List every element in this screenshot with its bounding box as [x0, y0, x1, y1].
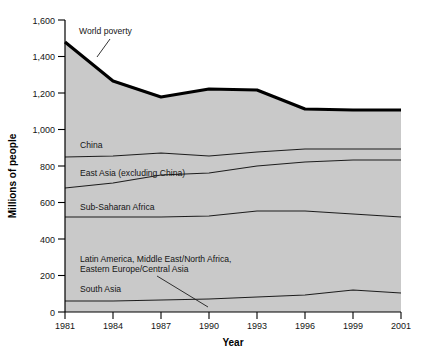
series-label-south-asia: South Asia — [80, 284, 121, 294]
y-tick-800: 800 — [40, 162, 55, 172]
y-tick-0: 0 — [50, 308, 55, 318]
y-tick-1600: 1,600 — [32, 16, 55, 26]
x-tick-1981: 1981 — [55, 321, 75, 331]
x-tick-1993: 1993 — [247, 321, 267, 331]
x-tick-1996: 1996 — [295, 321, 315, 331]
x-tick-1987: 1987 — [151, 321, 171, 331]
y-tick-1400: 1,400 — [32, 52, 55, 62]
y-tick-1200: 1,200 — [32, 89, 55, 99]
y-tick-200: 200 — [40, 271, 55, 281]
series-label-world-poverty: World poverty — [79, 26, 133, 36]
series-label-sub-saharan-africa: Sub-Saharan Africa — [80, 202, 155, 212]
y-axis-title: Millions of people — [7, 133, 18, 218]
series-label-east-asia: East Asia (excluding China) — [80, 168, 185, 178]
y-tick-600: 600 — [40, 198, 55, 208]
x-tick-1990: 1990 — [199, 321, 219, 331]
series-label-latin-america-line2: Eastern Europe/Central Asia — [80, 264, 189, 274]
series-label-china: China — [80, 140, 103, 150]
poverty-area-chart: 1,600 1,400 1,200 1,000 800 600 400 200 … — [0, 0, 421, 353]
x-axis-title: Year — [222, 337, 243, 348]
y-tick-1000: 1,000 — [32, 125, 55, 135]
chart-svg: 1,600 1,400 1,200 1,000 800 600 400 200 … — [0, 0, 421, 353]
y-tick-400: 400 — [40, 235, 55, 245]
x-tick-2001: 2001 — [391, 321, 411, 331]
x-tick-1984: 1984 — [103, 321, 123, 331]
x-tick-1999: 1999 — [343, 321, 363, 331]
series-label-latin-america-line1: Latin America, Middle East/North Africa, — [80, 254, 231, 264]
